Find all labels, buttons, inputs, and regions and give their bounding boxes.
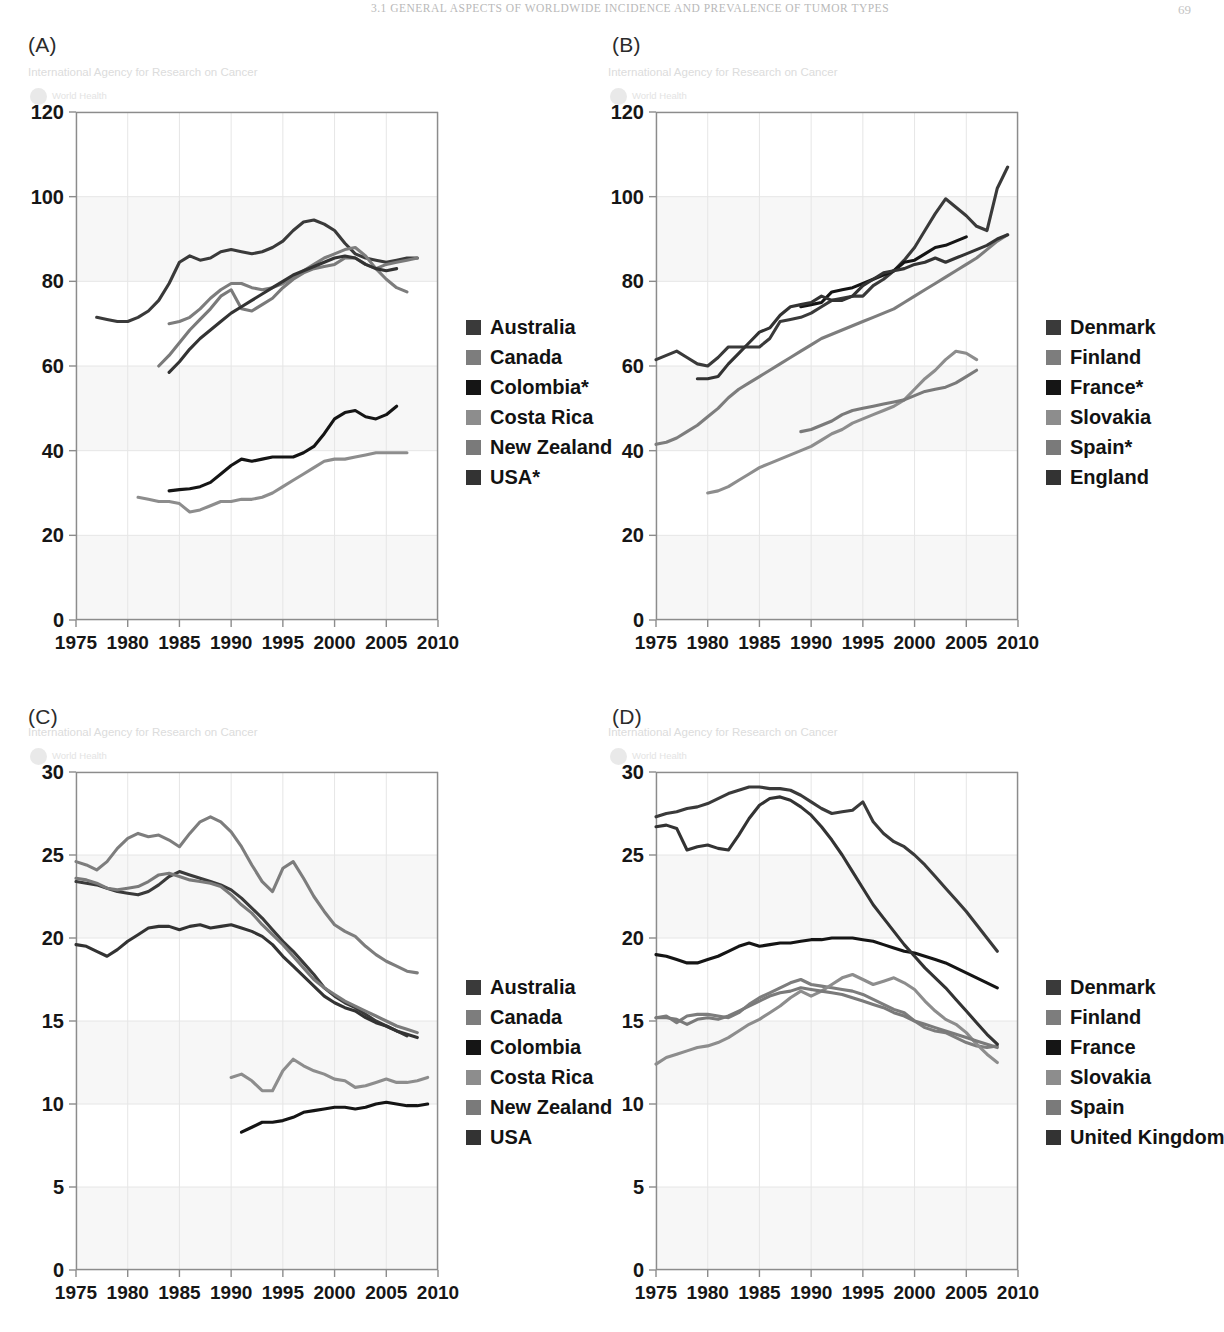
legend-d: DenmarkFinlandFranceSlovakiaSpainUnited …	[1046, 972, 1224, 1152]
legend-label: Finland	[1070, 1006, 1141, 1029]
legend-label: Spain	[1070, 1096, 1124, 1119]
legend-swatch-icon	[1046, 1070, 1061, 1085]
y-tick-label: 5	[592, 1176, 644, 1199]
x-tick-label: 1990	[790, 1282, 832, 1304]
panel-label-d: (D)	[612, 705, 642, 729]
x-tick-label: 1975	[635, 1282, 677, 1304]
legend-label: France	[1070, 1036, 1136, 1059]
legend-swatch-icon	[1046, 980, 1061, 995]
legend-label: United Kingdom	[1070, 1126, 1224, 1149]
y-tick-label: 0	[592, 1259, 644, 1282]
legend-swatch-icon	[1046, 1130, 1061, 1145]
legend-swatch-icon	[1046, 1040, 1061, 1055]
x-tick-label: 2010	[997, 1282, 1039, 1304]
legend-label: Denmark	[1070, 976, 1156, 999]
legend-item[interactable]: United Kingdom	[1046, 1122, 1224, 1152]
legend-swatch-icon	[1046, 1100, 1061, 1115]
x-tick-label: 2000	[893, 1282, 935, 1304]
x-tick-label: 1980	[687, 1282, 729, 1304]
legend-label: Slovakia	[1070, 1066, 1151, 1089]
legend-item[interactable]: Slovakia	[1046, 1062, 1224, 1092]
legend-item[interactable]: Finland	[1046, 1002, 1224, 1032]
y-tick-label: 30	[592, 761, 644, 784]
y-tick-label: 10	[592, 1093, 644, 1116]
y-tick-label: 15	[592, 1010, 644, 1033]
legend-swatch-icon	[1046, 1010, 1061, 1025]
y-tick-label: 20	[592, 927, 644, 950]
legend-item[interactable]: France	[1046, 1032, 1224, 1062]
iarc-watermark-sub: World Health	[632, 750, 687, 761]
x-tick-label: 1985	[738, 1282, 780, 1304]
x-tick-label: 2005	[945, 1282, 987, 1304]
series-line-france	[656, 938, 997, 988]
x-tick-label: 1995	[842, 1282, 884, 1304]
y-tick-label: 25	[592, 844, 644, 867]
iarc-watermark: International Agency for Research on Can…	[608, 726, 838, 738]
legend-item[interactable]: Spain	[1046, 1092, 1224, 1122]
legend-item[interactable]: Denmark	[1046, 972, 1224, 1002]
plot-area-d	[656, 772, 1018, 1270]
